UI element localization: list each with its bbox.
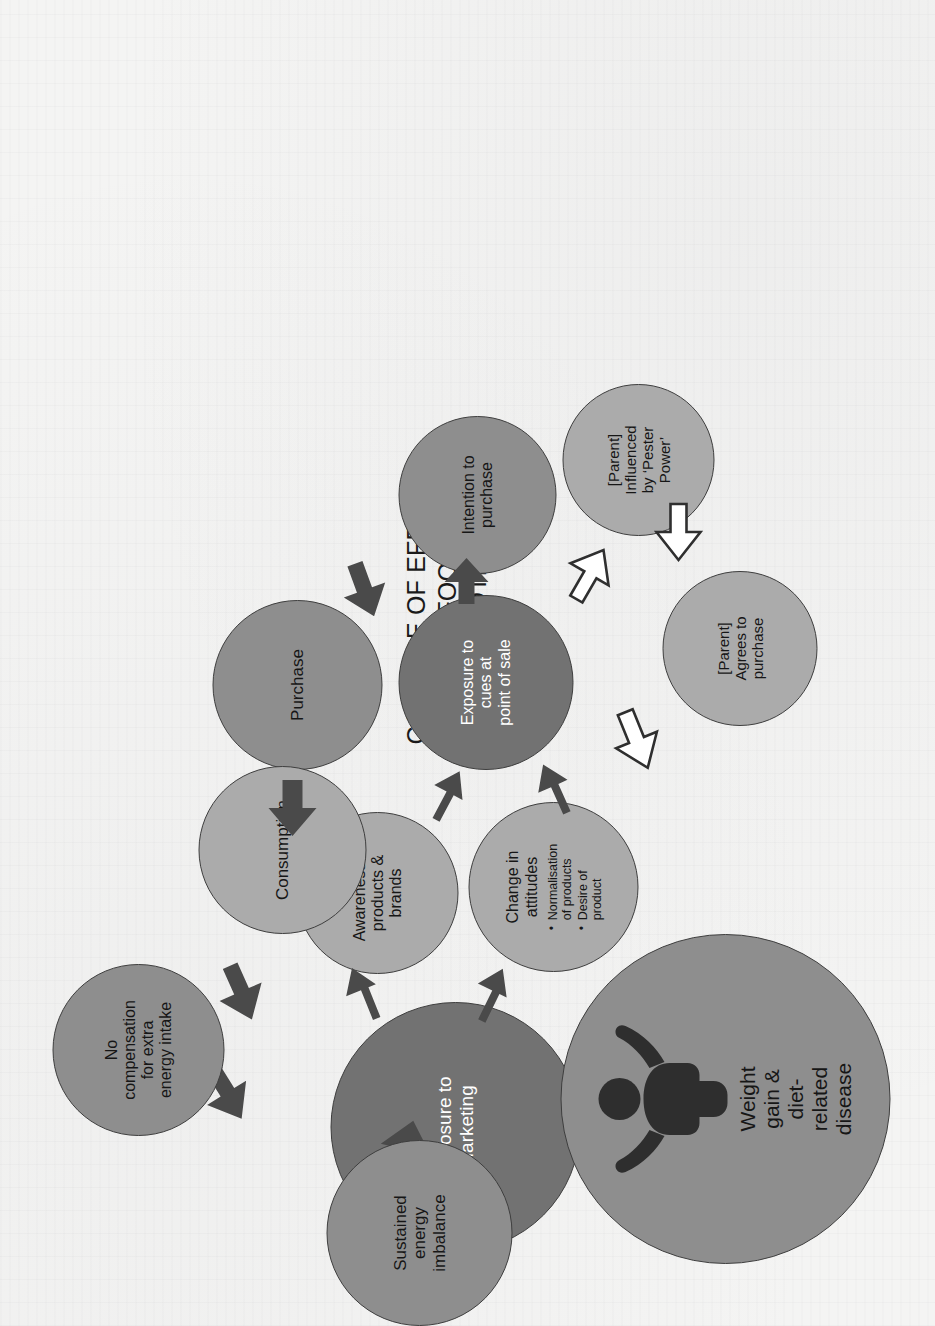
node-label-purchase: Purchase xyxy=(287,643,306,727)
arrow-intention-to-purchase xyxy=(330,554,404,626)
arrow-point-of-sale-to-intention xyxy=(440,554,500,608)
node-label-sustained-energy-imbalance: Sustained energy imbalance xyxy=(390,1188,448,1278)
node-sustained-energy-imbalance: Sustained energy imbalance xyxy=(326,1140,512,1326)
node-label-weight-gain-diet-related-disease: Weight gain & diet- related disease xyxy=(735,1057,855,1141)
arrow-change-in-attitudes-to-point-of-sale xyxy=(512,754,574,820)
node-no-compensation-for-extra-energy-intake: No compensation for extra energy intake xyxy=(52,964,224,1136)
node-weight-gain-diet-related-disease: Weight gain & diet- related disease xyxy=(560,934,890,1264)
node-change-in-attitudes: Change in attitudes Normalisation of pro… xyxy=(468,802,638,972)
node-label-parent-agrees-to-purchase: [Parent] Agrees to purchase xyxy=(714,610,765,686)
arrow-pester-power-to-parent-agrees xyxy=(650,498,718,570)
node-intention-to-purchase: Intention to purchase xyxy=(398,416,556,574)
arrow-parent-agrees-to-purchase xyxy=(600,702,678,778)
node-parent-agrees-to-purchase: [Parent] Agrees to purchase xyxy=(662,571,817,726)
arrow-exposure-to-awareness xyxy=(318,956,382,1026)
arrow-point-of-sale-to-pester-power xyxy=(556,536,628,608)
node-exposure-to-cues-at-point-of-sale: Exposure to cues at point of sale xyxy=(398,595,573,770)
node-label-parent-influenced-by-pester-power: [Parent] Influenced by ‘Pester Power’ xyxy=(604,419,672,500)
node-label-exposure-to-cues-at-point-of-sale: Exposure to cues at point of sale xyxy=(458,633,513,731)
node-label-change-in-attitudes: Change in attitudes xyxy=(503,845,539,930)
node-label-no-compensation-for-extra-energy-intake: No compensation for extra energy intake xyxy=(102,994,175,1106)
list-item: Desire of product xyxy=(575,844,603,930)
arrow-purchase-to-consumption xyxy=(262,774,324,844)
node-bullets-change-in-attitudes: Normalisation of products Desire of prod… xyxy=(543,844,603,930)
cascade-of-effects-diagram: CASCADE OF EFFECTS TO FOOD PROMOTIONS Ex… xyxy=(0,0,935,1326)
node-label-intention-to-purchase: Intention to purchase xyxy=(459,449,495,540)
person-icon xyxy=(597,1024,729,1174)
arrow-exposure-to-change-in-attitudes xyxy=(470,956,534,1026)
list-item: Normalisation of products xyxy=(545,844,573,930)
arrow-awareness-to-point-of-sale xyxy=(426,760,488,826)
